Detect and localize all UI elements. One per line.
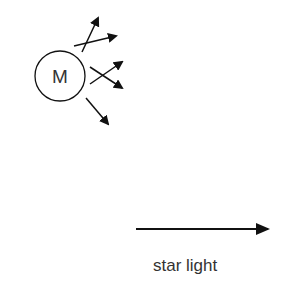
diagram-canvas: M (0, 0, 303, 300)
star-light-label: star light (153, 256, 217, 276)
scatter-arrow-3 (90, 62, 122, 84)
scatter-arrow-1 (82, 18, 98, 52)
molecule-label: M (52, 66, 68, 87)
scatter-arrow-5 (86, 98, 108, 124)
molecule: M (35, 51, 85, 101)
scatter-arrow-2 (74, 36, 116, 46)
scatter-arrow-4 (90, 67, 122, 88)
scattered-light-arrows (74, 18, 122, 124)
